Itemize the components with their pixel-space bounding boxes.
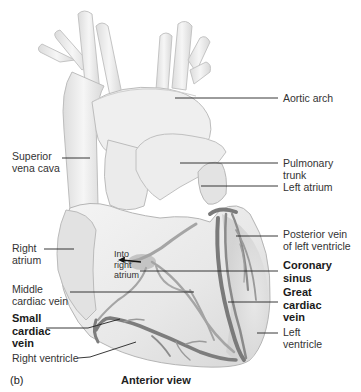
label-right-atrium: Right atrium [12,242,41,266]
great-vessel-branches [38,11,210,96]
figure-caption: Anterior view [121,374,191,386]
label-great-cardiac-vein: Great cardiac vein [283,286,322,324]
label-into-right-atrium: Into right atrium [114,249,139,281]
label-right-ventricle: Right ventricle [12,352,79,364]
left-atrium-shape [198,162,227,204]
label-small-cardiac-vein: Small cardiac vein [12,312,51,350]
label-posterior-vein-left-ventricle: Posterior vein of left ventricle [283,228,351,252]
label-coronary-sinus: Coronary sinus [283,259,332,284]
label-middle-cardiac-vein: Middle cardiac vein [12,283,68,307]
label-aortic-arch: Aortic arch [283,92,333,104]
label-pulmonary-trunk: Pulmonary trunk [283,157,333,181]
label-superior-vena-cava: Superior vena cava [12,150,60,174]
label-left-ventricle: Left ventricle [283,326,322,350]
panel-label: (b) [10,374,23,386]
label-left-atrium: Left atrium [283,181,333,193]
superior-vena-cava-shape [63,72,104,210]
